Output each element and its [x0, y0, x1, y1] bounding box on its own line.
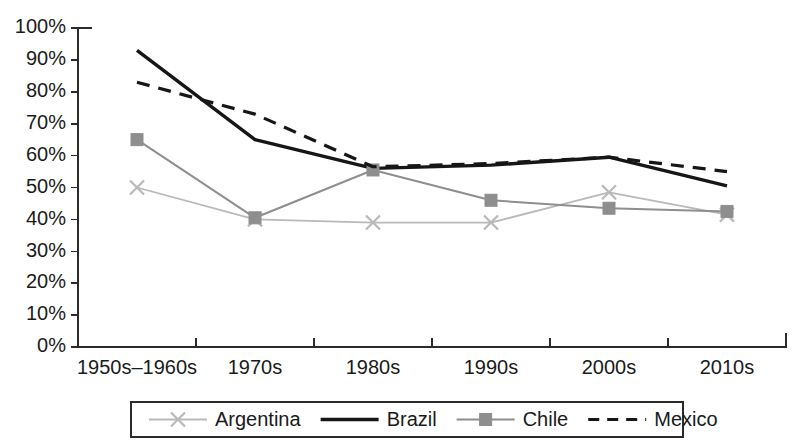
x-axis-tick-label: 1970s: [228, 356, 283, 378]
x-axis-tick-marks: [196, 338, 668, 347]
y-axis-tick-label: 20%: [26, 270, 66, 292]
axis-frame: [78, 28, 786, 347]
data-point-marker: [485, 194, 497, 206]
y-axis-tick-marks: [71, 28, 78, 347]
data-point-marker: [130, 181, 144, 195]
y-axis-tick-label: 50%: [26, 175, 66, 197]
series-mexico: [137, 82, 727, 171]
chart-container: 0%10%20%30%40%50%60%70%80%90%100% 1950s–…: [0, 0, 803, 448]
series-line-chile: [137, 140, 727, 218]
legend-label: Mexico: [654, 408, 717, 430]
y-axis-tick-label: 90%: [26, 47, 66, 69]
x-axis-tick-label: 2000s: [582, 356, 637, 378]
y-axis-tick-label: 80%: [26, 79, 66, 101]
y-axis-tick-label: 10%: [26, 302, 66, 324]
series-line-argentina: [137, 188, 727, 223]
data-point-marker: [602, 185, 616, 199]
series-argentina: [130, 181, 734, 230]
legend-swatch-marker: [480, 414, 492, 426]
legend-label: Brazil: [387, 408, 437, 430]
legend-label: Chile: [523, 408, 569, 430]
x-axis-tick-label: 2010s: [700, 356, 755, 378]
y-axis-tick-label: 40%: [26, 207, 66, 229]
x-axis-tick-labels: 1950s–1960s1970s1980s1990s2000s2010s: [77, 356, 754, 378]
data-point-marker: [131, 134, 143, 146]
data-point-marker: [603, 202, 615, 214]
series-line-mexico: [137, 82, 727, 171]
x-axis-tick-label: 1950s–1960s: [77, 356, 197, 378]
x-axis-tick-label: 1990s: [464, 356, 519, 378]
legend-label: Argentina: [215, 408, 301, 430]
y-axis-tick-labels: 0%10%20%30%40%50%60%70%80%90%100%: [15, 15, 66, 356]
y-axis-tick-label: 70%: [26, 111, 66, 133]
data-point-marker: [721, 205, 733, 217]
y-axis-tick-label: 0%: [37, 334, 66, 356]
x-axis-tick-label: 1980s: [346, 356, 401, 378]
line-chart: 0%10%20%30%40%50%60%70%80%90%100% 1950s–…: [0, 0, 803, 448]
y-axis-tick-label: 30%: [26, 239, 66, 261]
y-axis-tick-label: 100%: [15, 15, 66, 37]
chart-legend: ArgentinaBrazilChileMexico: [131, 402, 718, 437]
data-point-marker: [249, 212, 261, 224]
series-group: [130, 50, 734, 229]
y-axis-tick-label: 60%: [26, 143, 66, 165]
